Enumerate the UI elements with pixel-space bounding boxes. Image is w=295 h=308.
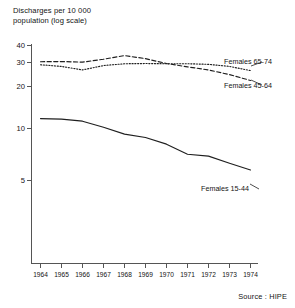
y-tick-label-10: 10: [17, 124, 25, 133]
y-tick-label-5: 5: [21, 176, 25, 185]
leader-line-females-15-44: [250, 184, 259, 189]
x-tick-label-1964: 1964: [33, 271, 48, 278]
x-tick-label-1973: 1973: [222, 271, 237, 278]
chart-container: Discharges per 10 000population (log sca…: [0, 0, 295, 308]
series-line-females-65-74: [41, 64, 251, 71]
x-axis-tick-labels: 1964 1965 1966 1967 1968 1969 1970 1971 …: [33, 271, 258, 278]
x-tick-label-1967: 1967: [96, 271, 111, 278]
y-axis-ticks: [27, 46, 32, 181]
series-line-females-15-44: [41, 119, 251, 170]
series-label-females-45-64: Females 45-64: [224, 81, 272, 90]
x-tick-label-1970: 1970: [159, 271, 174, 278]
series-label-females-65-74: Females 65-74: [224, 57, 272, 66]
x-tick-label-1969: 1969: [138, 271, 153, 278]
x-tick-label-1965: 1965: [54, 271, 69, 278]
line-chart-plot: 40 30 20 10 5 1964 1965 1966 1967 1968 1…: [0, 0, 295, 308]
y-axis-tick-labels: 40 30 20 10 5: [17, 41, 25, 185]
x-tick-label-1968: 1968: [117, 271, 132, 278]
x-tick-label-1971: 1971: [180, 271, 195, 278]
x-tick-label-1974: 1974: [243, 271, 258, 278]
x-axis-ticks: [41, 264, 251, 269]
x-tick-label-1972: 1972: [201, 271, 216, 278]
y-tick-label-30: 30: [17, 58, 25, 67]
source-note: Source : HIPE: [238, 292, 287, 301]
y-tick-label-20: 20: [17, 82, 25, 91]
y-tick-label-40: 40: [17, 41, 25, 50]
x-tick-label-1966: 1966: [75, 271, 90, 278]
series-label-females-15-44: Females 15-44: [201, 184, 249, 193]
